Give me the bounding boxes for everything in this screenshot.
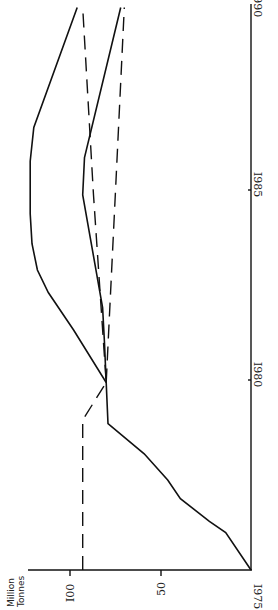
tick-label-50: 50 [155, 582, 168, 596]
series-line-2 [83, 8, 107, 571]
y-axis-title: Million Tonnes [6, 576, 26, 608]
series-line-3 [106, 8, 124, 383]
tick-label-1975: I975 [251, 584, 264, 609]
svg-text:Million: Million [6, 578, 16, 607]
line-chart: Million Tonnes I00 50 I975 I980 I985 I99… [0, 0, 278, 610]
series-line-0 [30, 8, 251, 571]
series-layer [30, 8, 251, 571]
tick-label-1990: I990 [251, 0, 264, 17]
tick-label-1985: I985 [251, 172, 264, 197]
svg-text:Tonnes: Tonnes [16, 576, 26, 608]
tick-label-1980: I980 [251, 362, 264, 387]
tick-label-100: I00 [64, 584, 77, 602]
